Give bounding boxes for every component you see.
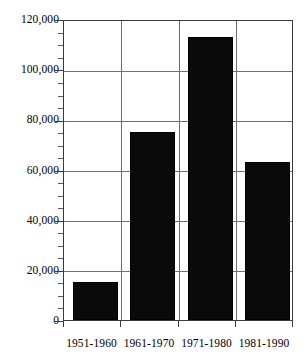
x-axis-label-1951-1960: 1951-1960 bbox=[63, 337, 120, 349]
y-axis-tick-60000 bbox=[55, 171, 63, 172]
y-axis-tick-120000 bbox=[55, 20, 63, 21]
y-axis-tick-20000 bbox=[55, 271, 63, 272]
y-axis-tick-40000 bbox=[55, 221, 63, 222]
x-axis-tick-2 bbox=[178, 321, 179, 327]
gridline-vertical-1 bbox=[121, 21, 122, 320]
y-axis-tick-80000 bbox=[55, 121, 63, 122]
bar-1951-1960 bbox=[73, 282, 118, 320]
x-axis-tick-right bbox=[292, 321, 293, 327]
x-axis-tick-1 bbox=[120, 321, 121, 327]
y-axis-tick-100000 bbox=[55, 70, 63, 71]
x-axis-tick-left bbox=[63, 321, 64, 327]
bar-1961-1970 bbox=[130, 132, 175, 320]
x-axis-label-1961-1970: 1961-1970 bbox=[120, 337, 178, 349]
gridline-horizontal-100000 bbox=[64, 71, 292, 72]
y-axis-tick-0 bbox=[55, 321, 63, 322]
plot-area bbox=[63, 20, 293, 321]
gridline-horizontal-80000 bbox=[64, 121, 292, 122]
x-axis-label-1981-1990: 1981-1990 bbox=[235, 337, 293, 349]
bar-chart: 120,000 100,000 80,000 60,000 40,000 20,… bbox=[0, 0, 307, 363]
gridline-vertical-2 bbox=[179, 21, 180, 320]
gridline-vertical-3 bbox=[236, 21, 237, 320]
y-axis-label-100000: 100,000 bbox=[21, 64, 59, 76]
bar-1981-1990 bbox=[245, 162, 290, 320]
x-axis-label-1971-1980: 1971-1980 bbox=[178, 337, 235, 349]
y-axis-label-80000: 80,000 bbox=[27, 114, 59, 126]
x-axis-tick-3 bbox=[235, 321, 236, 327]
y-axis-label-120000: 120,000 bbox=[21, 14, 59, 26]
bar-1971-1980 bbox=[188, 37, 233, 320]
